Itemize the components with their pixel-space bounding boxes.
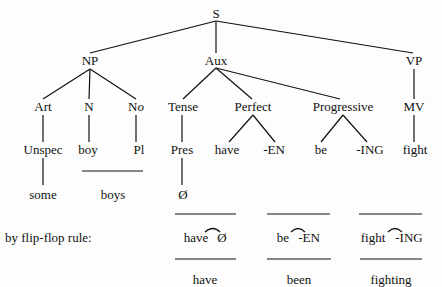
node-vp: VP bbox=[406, 54, 423, 68]
node-art: Art bbox=[34, 100, 51, 114]
ff1-right: Ø bbox=[217, 231, 226, 245]
node-en: -EN bbox=[263, 143, 285, 157]
node-unspec: Unspec bbox=[24, 143, 63, 157]
node-boy: boy bbox=[78, 143, 98, 157]
node-have: have bbox=[215, 143, 240, 157]
node-pl: Pl bbox=[134, 143, 145, 157]
node-aux: Aux bbox=[205, 54, 227, 68]
node-some: some bbox=[29, 188, 56, 202]
node-no-o: o bbox=[137, 99, 144, 114]
node-fight: fight bbox=[403, 143, 428, 157]
ff2-result: been bbox=[287, 273, 312, 287]
ff2-left: be bbox=[277, 231, 289, 245]
node-ing: -ING bbox=[356, 143, 383, 157]
node-perfect: Perfect bbox=[235, 100, 272, 114]
ff2-right: -EN bbox=[298, 231, 320, 245]
ff3-left: fight bbox=[361, 231, 386, 245]
node-mv: MV bbox=[404, 100, 425, 114]
node-be: be bbox=[315, 143, 327, 157]
node-no: No bbox=[128, 100, 144, 114]
node-tense: Tense bbox=[168, 100, 198, 114]
node-null: Ø bbox=[178, 188, 187, 202]
node-progressive: Progressive bbox=[313, 100, 374, 114]
node-n: N bbox=[84, 100, 93, 114]
ff3-right: -ING bbox=[395, 231, 422, 245]
ff3-result: fighting bbox=[370, 273, 411, 287]
node-boys: boys bbox=[101, 188, 126, 202]
syntax-tree-diagram: S NP Aux VP Art N No Tense Perfect Progr… bbox=[0, 0, 442, 287]
node-np: NP bbox=[82, 54, 99, 68]
ff1-result: have bbox=[193, 273, 218, 287]
node-no-n: N bbox=[128, 99, 137, 114]
node-s: S bbox=[212, 7, 219, 21]
ff1-left: have bbox=[184, 231, 209, 245]
flip-flop-label: by flip-flop rule: bbox=[5, 231, 92, 245]
node-pres: Pres bbox=[171, 143, 193, 157]
